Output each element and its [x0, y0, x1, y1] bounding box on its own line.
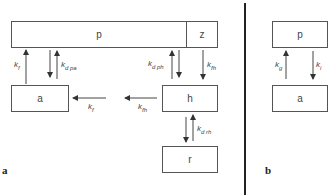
rate-kd-ph: kd ph [148, 59, 164, 70]
rate-ki: ki [316, 60, 321, 71]
arrows-layer [0, 0, 333, 195]
rate-kf-up: kf [14, 60, 20, 71]
panel-label-b: b [265, 164, 271, 176]
rate-kd-pa: kd pa [61, 60, 77, 71]
panel-label-a: a [2, 164, 8, 176]
rate-kd-rh: kd rh [197, 124, 211, 135]
rate-kf-left: kf [88, 102, 94, 113]
rate-kg: kg [275, 60, 282, 71]
rate-kfh-down: kfh [207, 60, 216, 71]
rate-kfh-left: kfh [138, 102, 147, 113]
